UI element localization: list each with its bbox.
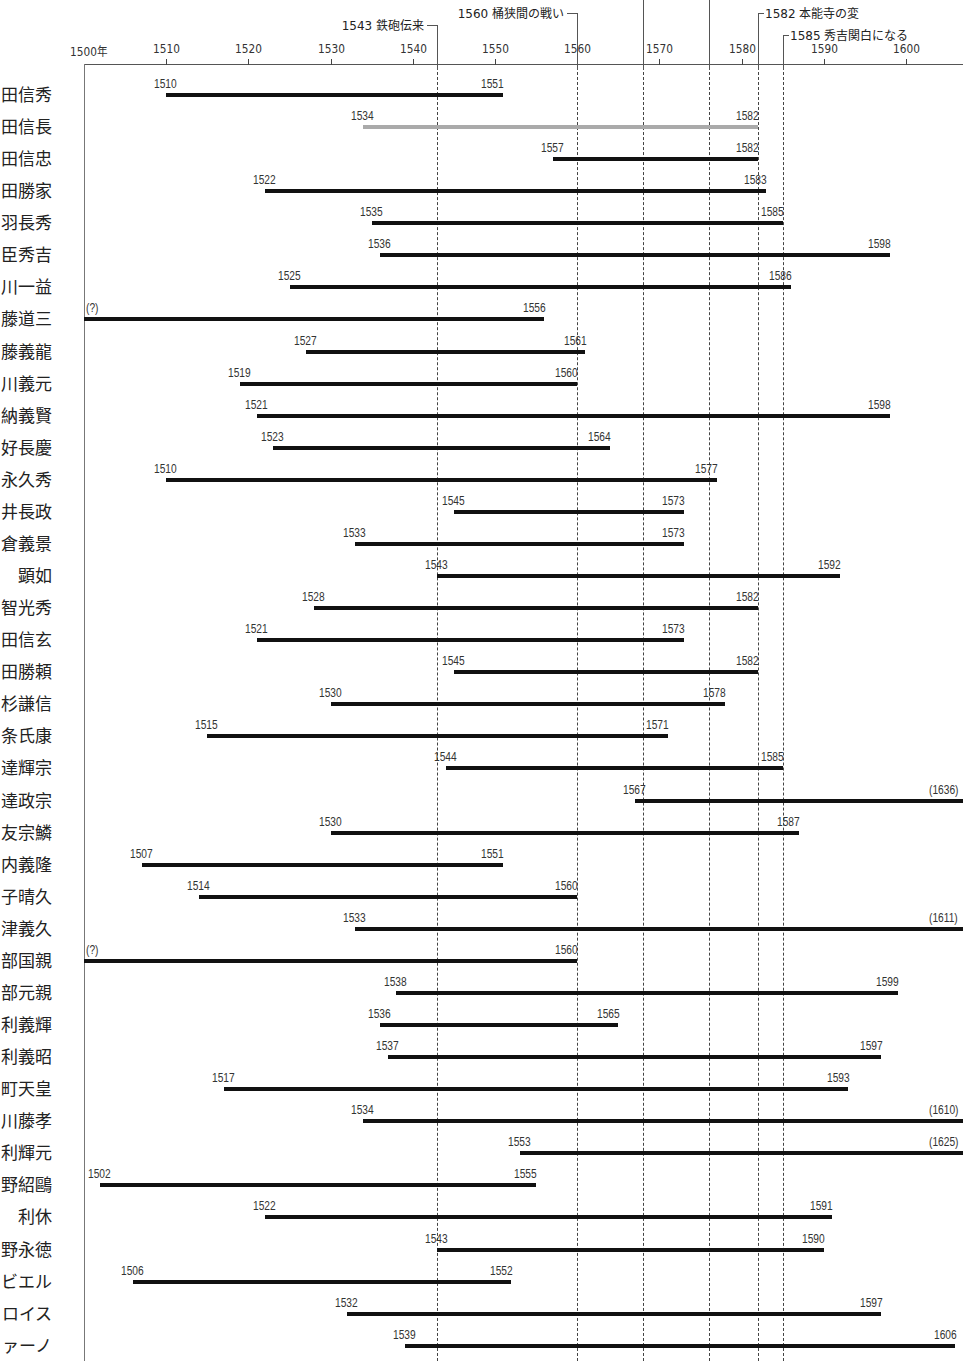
start-year-label: 1536 [368, 237, 391, 251]
end-year-label: 1564 [588, 430, 611, 444]
event-line-top [577, 13, 578, 70]
event-line-top [758, 13, 759, 70]
start-year-label: 1543 [425, 1232, 448, 1246]
person-name: 臣秀吉 [1, 245, 52, 265]
x-axis-tick-label: 1510 [153, 42, 180, 56]
x-axis-tick-label: 1550 [482, 42, 509, 56]
lifespan-bar [446, 766, 783, 770]
x-axis-tick-label: 1500年 [70, 42, 107, 59]
x-axis-line [84, 64, 963, 65]
end-year-label: 1556 [523, 301, 546, 315]
lifespan-bar [437, 574, 840, 578]
start-year-label: 1544 [434, 750, 457, 764]
start-year-label: 1538 [384, 975, 407, 989]
end-year-label: 1578 [703, 686, 726, 700]
x-axis-tick [906, 59, 907, 65]
person-name: 田信秀 [1, 85, 52, 105]
lifespan-bar [454, 670, 758, 674]
start-year-label: 1533 [343, 526, 366, 540]
person-name: 友宗鱗 [1, 823, 52, 843]
person-name: 野紹鷗 [1, 1175, 52, 1195]
start-year-label: 1532 [335, 1296, 358, 1310]
lifespan-bar [405, 1344, 956, 1348]
end-year-label: (1611) [929, 911, 958, 925]
end-year-label: 1582 [736, 654, 759, 668]
start-year-label: 1517 [212, 1071, 235, 1085]
end-year-label: 1590 [802, 1232, 825, 1246]
start-year-label: 1522 [253, 1199, 276, 1213]
person-name: 納義賢 [1, 406, 52, 426]
end-year-label: 1565 [597, 1007, 620, 1021]
x-axis-tick [331, 59, 332, 65]
start-year-label: 1534 [351, 1103, 374, 1117]
end-year-label: 1551 [481, 77, 504, 91]
end-year-label: 1599 [876, 975, 899, 989]
end-year-label: (1610) [929, 1103, 958, 1117]
lifespan-bar [306, 350, 585, 354]
event-line-dashed [577, 72, 578, 1361]
event-line-dashed [643, 72, 644, 1361]
start-year-label: 1507 [130, 847, 153, 861]
end-year-label: 1583 [744, 173, 767, 187]
start-year-label: 1525 [278, 269, 301, 283]
event-line-dashed [437, 72, 438, 1361]
person-name: 田信忠 [1, 149, 52, 169]
end-year-label: 1587 [777, 815, 800, 829]
start-year-label: 1514 [187, 879, 210, 893]
lifespan-bar [224, 1087, 849, 1091]
person-name: 川義元 [1, 374, 52, 394]
start-year-label: (?) [86, 301, 98, 315]
start-year-label: 1521 [245, 398, 268, 412]
end-year-label: 1560 [555, 943, 578, 957]
lifespan-bar [265, 1215, 832, 1219]
person-name: 好長慶 [1, 438, 52, 458]
x-axis-tick-label: 1570 [646, 42, 673, 56]
start-year-label: 1515 [195, 718, 218, 732]
start-year-label: (?) [86, 943, 98, 957]
start-year-label: 1534 [351, 109, 374, 123]
person-name: 利義輝 [1, 1015, 52, 1035]
x-axis-tick-label: 1600 [893, 42, 920, 56]
event-line-top [437, 25, 438, 70]
person-name: 利義昭 [1, 1047, 52, 1067]
start-year-label: 1530 [319, 815, 342, 829]
start-year-label: 1502 [88, 1167, 111, 1181]
lifespan-bar [314, 606, 758, 610]
lifespan-bar [199, 895, 577, 899]
person-name: 羽長秀 [1, 213, 52, 233]
lifespan-bar [520, 1151, 963, 1155]
lifespan-bar [454, 510, 684, 514]
end-year-label: 1560 [555, 366, 578, 380]
end-year-label: 1598 [868, 398, 891, 412]
lifespan-bar [84, 959, 577, 963]
x-axis-tick-label: 1540 [400, 42, 427, 56]
lifespan-bar [265, 189, 766, 193]
lifespan-bar [100, 1183, 536, 1187]
start-year-label: 1527 [294, 334, 317, 348]
start-year-label: 1543 [425, 558, 448, 572]
event-label: 1560 桶狭間の戦い [458, 4, 564, 21]
start-year-label: 1528 [302, 590, 325, 604]
person-name: 野永徳 [1, 1240, 52, 1260]
lifespan-bar [166, 478, 717, 482]
lifespan-bar [207, 734, 667, 738]
person-name: ァーノ [2, 1336, 52, 1356]
start-year-label: 1510 [154, 462, 177, 476]
lifespan-bar [273, 446, 610, 450]
end-year-label: 1606 [934, 1328, 957, 1342]
start-year-label: 1537 [376, 1039, 399, 1053]
event-line-dashed [783, 72, 784, 1361]
end-year-label: 1593 [827, 1071, 850, 1085]
timeline-chart: 1500年15101520153015401550156015701580159… [0, 0, 968, 1361]
x-axis-tick [495, 59, 496, 65]
event-label: 1582 本能寺の変 [765, 4, 859, 21]
x-axis-tick [659, 59, 660, 65]
person-name: 条氏康 [1, 726, 52, 746]
x-axis-tick [248, 59, 249, 65]
person-name: 利休 [18, 1207, 52, 1227]
event-line-top [709, 0, 710, 70]
end-year-label: 1573 [662, 622, 685, 636]
person-name: ロイス [2, 1304, 52, 1324]
end-year-label: 1585 [761, 750, 784, 764]
lifespan-bar [133, 1280, 511, 1284]
